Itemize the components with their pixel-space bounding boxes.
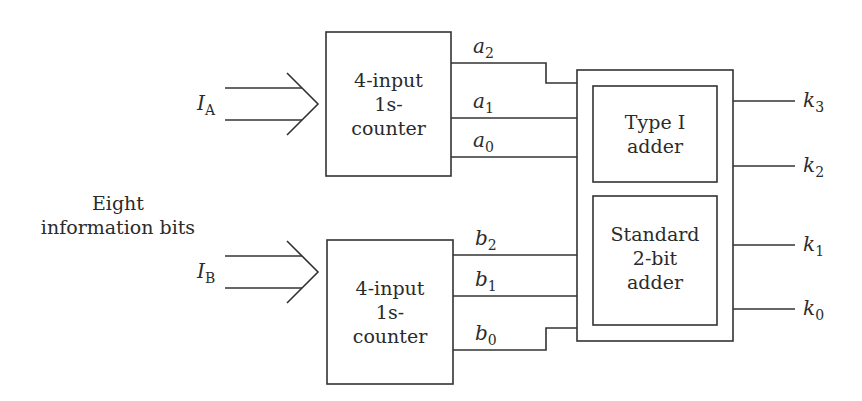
- eight-info-bits-label: Eight information bits: [28, 191, 208, 239]
- counter-b-label: 4-input 1s- counter: [327, 276, 453, 348]
- wire-a2: [451, 63, 577, 83]
- bus-arrow-ib: [225, 241, 318, 303]
- input-label-ia: IA: [197, 93, 215, 120]
- wire-b0: [453, 328, 577, 350]
- label-b2: b2: [475, 228, 497, 255]
- label-line-2: information bits: [28, 215, 208, 239]
- label-k0: k0: [803, 298, 824, 325]
- label-b1: b1: [475, 269, 497, 296]
- label-a1: a1: [473, 91, 494, 118]
- counter-a-label: 4-input 1s- counter: [326, 68, 451, 140]
- label-line-1: Eight: [28, 191, 208, 215]
- label-k3: k3: [803, 90, 824, 117]
- label-b0: b0: [475, 323, 497, 350]
- bus-arrow-ia: [225, 73, 318, 135]
- label-a0: a0: [473, 130, 494, 157]
- label-a2: a2: [473, 36, 494, 63]
- standard-adder-label: Standard 2-bit adder: [593, 222, 717, 294]
- label-k2: k2: [803, 155, 824, 182]
- label-k1: k1: [803, 234, 824, 261]
- input-label-ib: IB: [197, 261, 215, 288]
- type1-adder-label: Type I adder: [593, 110, 717, 158]
